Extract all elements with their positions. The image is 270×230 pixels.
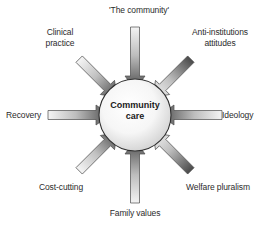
- label-the-community: 'The community': [96, 5, 182, 16]
- label-cost-cutting: Cost-cutting: [30, 182, 92, 193]
- label-clinical-practice: Clinical practice: [30, 27, 90, 48]
- label-welfare-pluralism: Welfare pluralism: [172, 182, 264, 193]
- label-anti-institutions: Anti-institutions attitudes: [180, 27, 260, 48]
- center-label: Community care: [103, 100, 167, 121]
- label-family-values: Family values: [92, 208, 178, 219]
- community-care-diagram: Community care 'The community' Anti-inst…: [0, 0, 270, 230]
- label-recovery: Recovery: [6, 110, 50, 121]
- label-ideology: Ideology: [222, 110, 268, 121]
